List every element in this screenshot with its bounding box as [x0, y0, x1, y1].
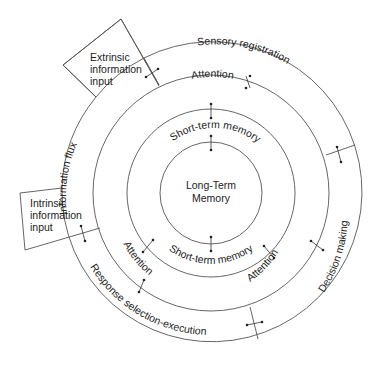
arrow-attention-stm-left	[142, 239, 155, 254]
cognitive-model-diagram: Long-Term Memory Extrinsic information i…	[0, 0, 377, 367]
extrinsic-label-3: input	[90, 75, 113, 87]
arrow-stm-ltm-top	[210, 135, 213, 152]
intrinsic-label-2: information	[30, 209, 82, 221]
arrow-attention-decision	[310, 240, 325, 252]
attention-left-label: Attention	[121, 239, 156, 277]
intrinsic-label-3: input	[30, 221, 53, 233]
information-flux-label: Information flux	[56, 139, 79, 215]
arrow-attention-stm-top	[210, 103, 213, 120]
separator-sensory-decision	[326, 145, 355, 155]
ltm-label-line2: Memory	[192, 192, 231, 204]
sensory-registration-label: Sensory registration	[197, 34, 293, 66]
extrinsic-label-2: information	[90, 63, 142, 75]
attention-top-label: Attention	[190, 67, 235, 81]
stm-top-label: Short-term memory	[167, 118, 263, 145]
decision-making-label: Decision making	[315, 220, 350, 294]
arrow-extrinsic	[145, 68, 160, 79]
arrow-sensory-decision	[336, 146, 343, 164]
ltm-label-line1: Long-Term	[186, 179, 236, 191]
extrinsic-label-1: Extrinsic	[90, 51, 130, 63]
